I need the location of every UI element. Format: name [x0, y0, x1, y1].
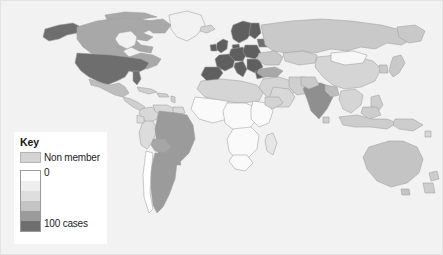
scale-step-4: [21, 211, 40, 221]
non-member-swatch: [20, 152, 41, 163]
scale-step-0: [21, 171, 40, 181]
scale-max-label: 100 cases: [44, 218, 88, 229]
region-korea: [379, 65, 388, 73]
legend-scale: 0 100 cases: [20, 170, 106, 236]
non-member-label: Non member: [44, 152, 100, 163]
scale-step-2: [21, 191, 40, 201]
legend-title: Key: [20, 136, 103, 148]
scale-step-3: [21, 201, 40, 211]
scale-step-1: [21, 181, 40, 191]
legend-non-member-row: Non member: [20, 151, 103, 164]
map-frame: Key Non member 0 100 cases: [0, 0, 443, 255]
region-new-zealand-south: [423, 183, 435, 193]
legend-gradient-bar: [20, 170, 41, 232]
region-pacific-islands: [425, 131, 431, 137]
scale-min-label: 0: [44, 167, 49, 178]
scale-step-5: [21, 221, 40, 231]
region-tasmania: [401, 189, 410, 195]
map-legend: Key Non member 0 100 cases: [14, 132, 107, 244]
region-sri-lanka: [323, 117, 329, 123]
region-ireland: [210, 44, 217, 51]
region-new-zealand-north: [429, 171, 439, 181]
world-map-figure: Key Non member 0 100 cases: [0, 0, 443, 255]
